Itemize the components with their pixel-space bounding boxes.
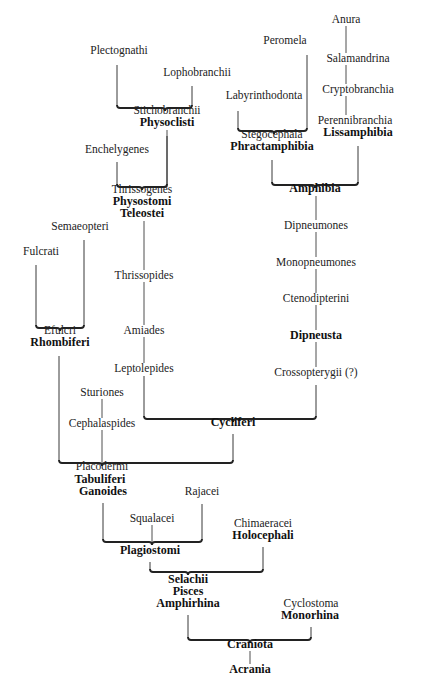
node-teleostei: Teleostei [120, 207, 164, 220]
node-fulcrati: Fulcrati [23, 245, 59, 258]
node-thrissopides: Thrissopides [115, 269, 174, 282]
node-dipneumones: Dipneumones [284, 219, 348, 232]
phylogeny-diagram: AnuraPeromelaSalamandrinaPlectognathiLop… [0, 0, 421, 692]
node-cycliferi: Cycliferi [211, 416, 256, 429]
node-labyrinthodonta: Labyrinthodonta [226, 89, 303, 102]
node-monopneumones: Monopneumones [276, 256, 356, 269]
node-monorhina: Monorhina [281, 609, 339, 622]
node-holocephali: Holocephali [232, 529, 293, 542]
node-lissamphibia: Lissamphibia [323, 126, 392, 139]
node-amphirhina: Amphirhina [156, 597, 219, 610]
node-leptolepides: Leptolepides [114, 362, 173, 375]
node-peromela: Peromela [263, 34, 306, 47]
node-dipneusta: Dipneusta [290, 329, 342, 342]
node-sturiones: Sturiones [80, 386, 123, 399]
node-anura: Anura [332, 13, 361, 26]
node-physoclisti: Physoclisti [140, 116, 195, 129]
node-amphibia: Amphibia [289, 182, 340, 195]
node-ctenodipterini: Ctenodipterini [283, 292, 349, 305]
node-salamandrina: Salamandrina [326, 52, 389, 65]
node-crossopterygii: Crossopterygii (?) [274, 366, 357, 379]
node-plectognathi: Plectognathi [90, 44, 148, 57]
node-craniota: Craniota [227, 638, 273, 651]
node-rajacei: Rajacei [185, 485, 219, 498]
node-cryptobranchia: Cryptobranchia [322, 83, 394, 96]
node-plagiostomi: Plagiostomi [120, 544, 180, 557]
node-ganoides: Ganoides [79, 485, 127, 498]
node-cephalaspides: Cephalaspides [69, 417, 135, 430]
node-rhombiferi: Rhombiferi [30, 336, 89, 349]
node-enchelygenes: Enchelygenes [85, 143, 149, 156]
node-lophobranchii: Lophobranchii [163, 66, 231, 79]
node-acrania: Acrania [229, 663, 270, 676]
node-phractamphibia: Phractamphibia [230, 140, 313, 153]
node-amiades: Amiades [124, 324, 165, 337]
node-squalacei: Squalacei [130, 512, 175, 525]
node-semaeopteri: Semaeopteri [51, 220, 108, 233]
